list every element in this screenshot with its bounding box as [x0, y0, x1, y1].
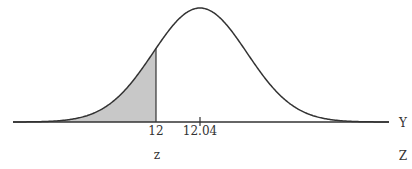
shaded-tail-area: [13, 48, 156, 122]
tick-label-12: 12: [148, 124, 163, 138]
axis-label-z: Z: [399, 149, 407, 163]
axis-label-y: Y: [398, 116, 408, 130]
normal-distribution-chart: 12 12.04 z Y Z: [0, 0, 412, 169]
z-value-label: z: [154, 148, 160, 162]
tick-label-mean: 12.04: [183, 124, 218, 138]
normal-curve: [13, 8, 389, 122]
